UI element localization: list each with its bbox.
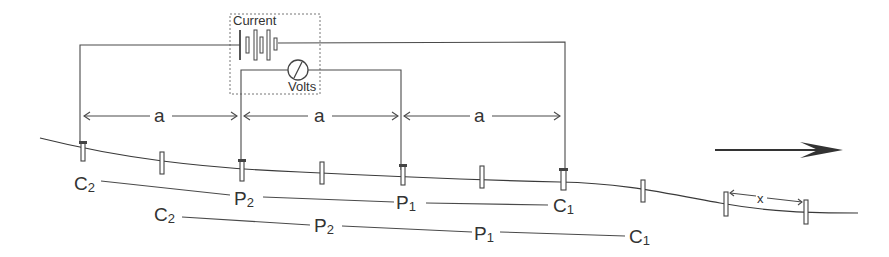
- volts-label: Volts: [288, 79, 317, 94]
- battery-icon: [240, 30, 277, 60]
- current-label: Current: [233, 13, 277, 28]
- electrode-label: C2: [74, 173, 95, 195]
- electrode-label: C1: [629, 226, 650, 248]
- direction-arrow-icon: [715, 142, 843, 158]
- spacing-label: a: [314, 105, 325, 126]
- spacing-dimension-1: a: [84, 105, 237, 126]
- stake-spacing-dimension: x: [730, 190, 802, 206]
- stake-marker: [804, 200, 808, 224]
- electrode-stake-p1: [399, 164, 407, 185]
- electrode-label: C1: [553, 195, 574, 217]
- spacing-dimension-2: a: [244, 105, 398, 126]
- electrode-label: P2: [314, 215, 334, 237]
- electrode-label: P1: [474, 223, 494, 245]
- current-wire: [80, 45, 240, 142]
- spacing-label: a: [474, 105, 485, 126]
- stake-marker: [641, 180, 645, 202]
- electrode-label: C2: [154, 204, 175, 226]
- stake-marker: [480, 166, 484, 188]
- spacing-dimension-3: a: [404, 105, 560, 126]
- electrode-stake-c1: [559, 168, 568, 190]
- diagram-canvas: Current Volts a a a: [0, 0, 889, 257]
- wenner-array-diagram: Current Volts a a a: [0, 0, 889, 257]
- potential-wire-left: [241, 70, 288, 165]
- electrode-stake-p2: [238, 159, 246, 181]
- voltmeter-icon: [288, 60, 308, 80]
- spacing-label: a: [154, 105, 165, 126]
- stake-marker: [160, 152, 164, 174]
- electrode-label: P1: [396, 192, 416, 214]
- electrode-stake-c2: [79, 141, 87, 161]
- electrode-label: P2: [234, 188, 254, 210]
- stake-marker: [724, 192, 728, 216]
- stake-spacing-label: x: [757, 191, 764, 206]
- stake-marker: [320, 162, 324, 184]
